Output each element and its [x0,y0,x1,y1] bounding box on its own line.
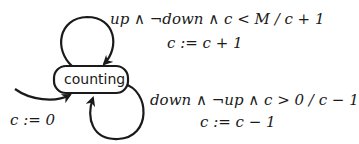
increment-guard-label: up ∧ ¬down ∧ c < M / c + 1 [110,12,325,27]
initial-action-label: c := 0 [10,113,55,128]
decrement-guard-label: down ∧ ¬up ∧ c > 0 / c − 1 [150,93,359,108]
state-counting-label: counting [64,72,125,86]
decrement-update-label: c := c − 1 [200,115,276,130]
increment-update-label: c := c + 1 [167,36,243,51]
increment-self-loop-arrow [61,17,113,66]
